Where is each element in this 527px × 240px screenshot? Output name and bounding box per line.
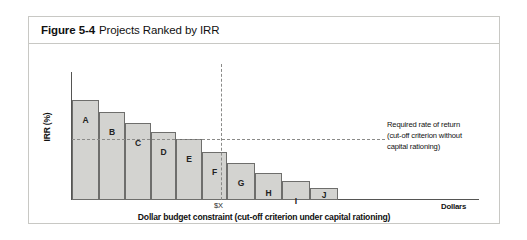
bar-label-E: E [177,154,201,164]
figure-title: Figure 5-4 Projects Ranked by IRR [29,17,499,44]
x-axis-right-label: Dollars [441,202,466,211]
bar-label-B: B [100,127,124,137]
bar-F: F [202,152,227,200]
bar-label-J: J [311,190,337,200]
bar-label-H: H [256,188,281,198]
annotation-line-2: (cut-off criterion without [387,130,499,141]
bar-label-G: G [228,178,254,188]
budget-constraint-tick-label: $X [214,201,223,210]
annotation-line-3: capital rationing) [387,141,499,152]
required-rate-of-return-annotation: Required rate of return (cut-off criteri… [387,119,499,152]
bar-C: C [125,123,151,200]
dollar-budget-constraint-line [221,64,222,200]
required-rate-of-return-line [72,139,385,140]
figure-number: Figure 5-4 [41,24,95,36]
x-axis-caption: Dollar budget constraint (cut-off criter… [29,212,499,222]
bar-A: A [72,100,99,200]
chart-plot-area: IRR (%) A B C D E F G H I J [29,44,499,224]
bar-label-A: A [73,115,98,125]
bar-B: B [99,112,125,200]
bar-label-I: I [283,196,309,206]
bar-label-F: F [203,167,226,177]
bar-G: G [227,163,255,200]
bar-D: D [151,132,176,200]
figure-container: Figure 5-4 Projects Ranked by IRR IRR (%… [28,16,500,224]
bar-label-D: D [152,147,175,157]
bar-E: E [176,139,202,200]
bar-J: J [310,188,338,200]
figure-title-text: Projects Ranked by IRR [99,24,220,36]
bar-I: I [282,181,310,200]
y-axis-label: IRR (%) [42,97,52,157]
bar-H: H [255,173,282,200]
annotation-line-1: Required rate of return [387,119,499,130]
